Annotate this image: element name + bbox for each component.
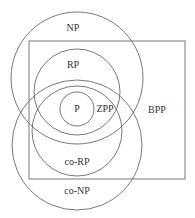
np-label: NP [67,22,80,33]
co-np-label: co-NP [64,185,90,196]
complexity-venn-diagram: NP RP P ZPP BPP co-RP co-NP [0,0,195,218]
p-label: P [74,103,80,114]
zpp-label: ZPP [96,103,114,114]
bpp-label: BPP [148,104,166,115]
rp-label: RP [67,59,80,70]
co-rp-label: co-RP [65,156,90,167]
